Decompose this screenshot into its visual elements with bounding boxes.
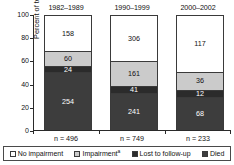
bar-segment-no-impairment[interactable]: 158 (45, 16, 91, 51)
y-tick-label: 100 (17, 10, 29, 19)
bar-segment-value: 161 (128, 70, 140, 78)
legend-label: Lost to follow-up (140, 149, 191, 158)
legend-label: Impairmenta (82, 149, 120, 158)
bar-segment-impairment[interactable]: 36 (177, 72, 223, 90)
stacked-bar[interactable]: 117 36 12 68 (176, 15, 224, 131)
legend-item-lost-to-follow-up[interactable]: Lost to follow-up (132, 149, 191, 158)
legend-footnote-marker: a (118, 148, 121, 154)
bar-segment-value: 12 (196, 90, 204, 97)
period-header: 1982–1989 (33, 2, 99, 13)
legend-swatch-icon (132, 151, 138, 157)
y-tick-label: 80 (21, 33, 29, 42)
bar-segment-died[interactable]: 68 (177, 97, 223, 130)
plot-area: Percent of total 100 80 60 40 20 (33, 15, 231, 131)
bar-segment-value: 41 (130, 86, 138, 93)
bar-group-1982-1989[interactable]: 158 60 24 254 (44, 15, 92, 131)
bar-segment-value: 36 (196, 77, 204, 85)
y-tick-label: 40 (21, 80, 29, 89)
sample-size-row: n = 496 n = 749 n = 233 (33, 133, 231, 144)
bar-group-1990-1999[interactable]: 306 161 41 241 (110, 15, 158, 131)
y-axis-ticks: 100 80 60 40 20 0 (1, 15, 33, 131)
bar-segment-no-impairment[interactable]: 306 (111, 16, 157, 61)
bars-container: 158 60 24 254 306 (33, 15, 231, 131)
y-tick: 0 (1, 131, 33, 132)
bar-group-2000-2002[interactable]: 117 36 12 68 (176, 15, 224, 131)
legend-swatch-icon (74, 151, 80, 157)
legend-item-died[interactable]: Died (202, 149, 224, 158)
y-tick: 40 (1, 85, 33, 86)
stacked-bar[interactable]: 306 161 41 241 (110, 15, 158, 131)
bar-segment-died[interactable]: 241 (111, 93, 157, 130)
stacked-bar[interactable]: 158 60 24 254 (44, 15, 92, 131)
y-tick-label: 20 (21, 103, 29, 112)
bar-segment-lost-to-follow-up[interactable]: 41 (111, 86, 157, 93)
y-tick: 60 (1, 61, 33, 62)
bar-segment-value: 117 (194, 40, 205, 48)
bar-segment-value: 254 (62, 98, 74, 106)
legend-label: No impairment (18, 149, 64, 158)
period-header: 2000–2002 (165, 2, 231, 13)
sample-size-label: n = 749 (99, 133, 165, 144)
period-header: 1990–1999 (99, 2, 165, 13)
y-tick: 80 (1, 38, 33, 39)
bar-segment-value: 241 (128, 108, 140, 116)
y-tick: 100 (1, 15, 33, 16)
bar-segment-no-impairment[interactable]: 117 (177, 16, 223, 72)
legend-item-impairment[interactable]: Impairmenta (74, 149, 120, 158)
bar-segment-value: 306 (128, 35, 140, 43)
legend-label: Died (210, 149, 224, 158)
y-tick: 20 (1, 108, 33, 109)
bar-segment-died[interactable]: 254 (45, 72, 91, 130)
bar-segment-impairment[interactable]: 60 (45, 51, 91, 65)
bar-segment-value: 158 (62, 30, 74, 38)
legend-item-no-impairment[interactable]: No impairment (10, 149, 64, 158)
legend-label-text: Impairment (82, 150, 117, 157)
legend-swatch-icon (202, 151, 208, 157)
y-tick-label: 0 (25, 126, 29, 135)
y-tick-label: 60 (21, 56, 29, 65)
bar-segment-value: 60 (64, 55, 72, 63)
sample-size-label: n = 496 (33, 133, 99, 144)
legend-swatch-icon (10, 151, 16, 157)
chart-legend: No impairment Impairmenta Lost to follow… (3, 146, 231, 161)
bar-segment-value: 68 (196, 110, 204, 118)
sample-size-label: n = 233 (165, 133, 231, 144)
period-header-row: 1982–1989 1990–1999 2000–2002 (33, 2, 231, 13)
stacked-bar-chart-figure: 1982–1989 1990–1999 2000–2002 Percent of… (0, 0, 234, 165)
bar-segment-impairment[interactable]: 161 (111, 61, 157, 86)
bar-segment-lost-to-follow-up[interactable]: 12 (177, 90, 223, 97)
